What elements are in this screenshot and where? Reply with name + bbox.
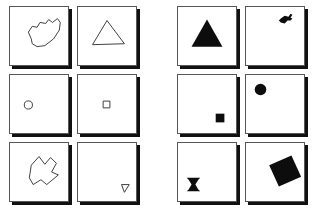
card-arrow-polygon-outline[interactable] xyxy=(9,142,69,202)
card-grid-outline xyxy=(6,0,141,206)
card-circle-outline[interactable] xyxy=(9,74,69,134)
card-square-outline[interactable] xyxy=(77,74,137,134)
triangle-filled-icon xyxy=(178,7,236,65)
arrow-polygon-outline-icon xyxy=(10,143,68,201)
card-triangle-filled[interactable] xyxy=(177,6,237,66)
right-panel-filled-shapes xyxy=(174,0,314,209)
hourglass-filled-icon xyxy=(178,143,236,201)
card-square-filled[interactable] xyxy=(177,74,237,134)
square-outline-icon xyxy=(78,75,136,133)
tiny-triangle-outline-icon xyxy=(78,143,136,201)
square-filled-icon xyxy=(178,75,236,133)
card-key-filled[interactable] xyxy=(245,6,305,66)
triangle-outline-icon xyxy=(78,7,136,65)
card-grid-filled xyxy=(174,0,309,206)
rotated-square-filled-icon xyxy=(246,143,304,201)
card-circle-filled[interactable] xyxy=(245,74,305,134)
circle-filled-icon xyxy=(246,75,304,133)
card-hourglass-filled[interactable] xyxy=(177,142,237,202)
card-blob-outline[interactable] xyxy=(9,6,69,66)
card-rotated-square-filled[interactable] xyxy=(245,142,305,202)
blob-outline-icon xyxy=(10,7,68,65)
card-tiny-triangle-outline[interactable] xyxy=(77,142,137,202)
card-triangle-outline[interactable] xyxy=(77,6,137,66)
circle-outline-icon xyxy=(10,75,68,133)
left-panel-outline-shapes xyxy=(6,0,146,209)
stimulus-board xyxy=(0,0,321,209)
key-filled-icon xyxy=(246,7,304,65)
